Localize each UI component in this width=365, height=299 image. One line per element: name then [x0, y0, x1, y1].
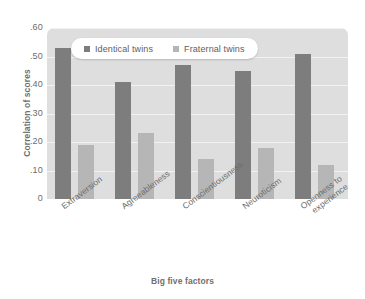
x-axis-title: Big five factors: [0, 276, 365, 286]
bar-identical-2: [175, 65, 191, 199]
bar-chart-figure: Correlation of scores .60.50.40.30.20.10…: [0, 0, 365, 299]
y-axis-tick: .30: [3, 108, 43, 118]
y-axis-tick: .10: [3, 165, 43, 175]
y-axis-tick: 0: [3, 193, 43, 203]
bar-identical-4: [295, 54, 311, 199]
y-axis-tick: .50: [3, 51, 43, 61]
chart-legend: Identical twins Fraternal twins: [71, 38, 258, 59]
bar-identical-0: [55, 48, 71, 199]
legend-swatch-fraternal-icon: [173, 46, 179, 52]
bar-identical-3: [235, 71, 251, 199]
y-axis-tick: .20: [3, 136, 43, 146]
legend-swatch-identical-icon: [84, 46, 90, 52]
legend-item-identical-twins: Identical twins: [84, 44, 153, 54]
bar-identical-1: [115, 82, 131, 199]
y-axis-tick: .60: [3, 22, 43, 32]
y-axis-tick: .40: [3, 79, 43, 89]
legend-label-fraternal: Fraternal twins: [184, 44, 245, 54]
legend-item-fraternal-twins: Fraternal twins: [173, 44, 245, 54]
legend-label-identical: Identical twins: [95, 44, 153, 54]
